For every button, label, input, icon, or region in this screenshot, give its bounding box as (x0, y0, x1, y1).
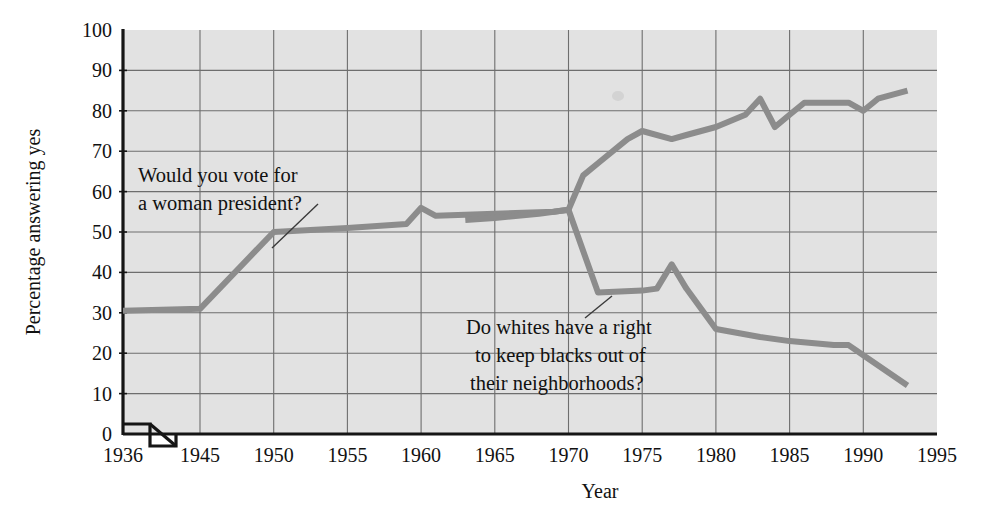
x-axis-title: Year (582, 480, 619, 502)
x-axis-tick-labels: 1936194519501955196019651970197519801985… (103, 444, 957, 466)
y-tick-label-20: 20 (92, 342, 112, 364)
x-tick-label-1936: 1936 (103, 444, 143, 466)
annotation-woman-president-line-2: a woman president? (138, 192, 302, 215)
y-tick-label-0: 0 (102, 423, 112, 445)
annotation-neighborhoods-line-1: Do whites have a right (466, 316, 652, 339)
x-tick-label-1960: 1960 (401, 444, 441, 466)
y-axis-tick-labels: 0102030405060708090100 (82, 19, 112, 445)
annotation-neighborhoods-line-3: their neighborhoods? (470, 372, 644, 395)
y-tick-label-100: 100 (82, 19, 112, 41)
x-tick-label-1955: 1955 (327, 444, 367, 466)
annotation-neighborhoods-line-2: to keep blacks out of (475, 344, 646, 367)
x-tick-label-1990: 1990 (843, 444, 883, 466)
x-tick-label-1945: 1945 (180, 444, 220, 466)
x-tick-label-1980: 1980 (696, 444, 736, 466)
x-tick-label-1965: 1965 (475, 444, 515, 466)
scan-artifact-smudge (612, 91, 624, 101)
x-tick-label-1970: 1970 (549, 444, 589, 466)
y-tick-label-10: 10 (92, 383, 112, 405)
x-tick-label-1975: 1975 (622, 444, 662, 466)
line-chart: 0102030405060708090100 19361945195019551… (0, 0, 996, 513)
annotation-neighborhoods: Do whites have a right to keep blacks ou… (466, 316, 652, 395)
chart-figure: 0102030405060708090100 19361945195019551… (0, 0, 996, 513)
x-tick-label-1950: 1950 (254, 444, 294, 466)
y-tick-label-30: 30 (92, 302, 112, 324)
annotation-woman-president-line-1: Would you vote for (138, 164, 298, 187)
y-tick-label-40: 40 (92, 261, 112, 283)
y-tick-label-60: 60 (92, 181, 112, 203)
x-tick-label-1985: 1985 (770, 444, 810, 466)
y-tick-label-70: 70 (92, 140, 112, 162)
y-tick-label-50: 50 (92, 221, 112, 243)
y-axis-title: Percentage answering yes (22, 128, 45, 335)
x-tick-label-1995: 1995 (917, 444, 957, 466)
y-tick-label-80: 80 (92, 100, 112, 122)
y-tick-label-90: 90 (92, 59, 112, 81)
